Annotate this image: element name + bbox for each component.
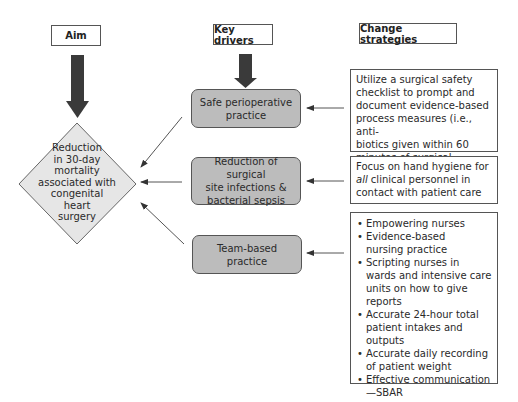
bullet-item: Evidence-based nursing practice (356, 230, 484, 256)
strategy-bullet-list: Empowering nurses Evidence-based nursing… (356, 217, 492, 399)
header-key-drivers: Key drivers (213, 24, 273, 45)
italic-emphasis: all (356, 174, 368, 185)
bullet-item: Accurate 24-hour total patient intakes a… (356, 308, 484, 347)
bullet-item: Empowering nurses (356, 217, 492, 230)
header-aim: Aim (51, 25, 101, 46)
aim-line: heart (22, 200, 132, 212)
strategy-line: biotics given within 60 (356, 138, 492, 151)
driver-safe-perioperative-practice: Safe perioperative practice (191, 89, 301, 128)
aim-line: mortality (22, 165, 132, 177)
header-change-strategies: Change strategies (359, 23, 457, 44)
aim-text: Reduction in 30-day mortality associated… (22, 142, 132, 223)
aim-line: Reduction (22, 142, 132, 154)
strategy-team-practice-list: Empowering nurses Evidence-based nursing… (350, 212, 498, 384)
strategy-text: clinical personnel in (368, 174, 471, 185)
driver-line: practice (200, 109, 292, 122)
bullet-item: Effective communication—SBAR (356, 373, 492, 399)
strategy-line: process measures (i.e., anti- (356, 112, 492, 138)
bullet-item: Scripting nurses in wards and intensive … (356, 256, 492, 308)
key-drivers-down-arrow-icon (234, 54, 257, 88)
aim-line: surgery (22, 211, 132, 223)
strategy-line: Focus on hand hygiene for (356, 160, 492, 173)
driver-line: Team-based practice (197, 242, 297, 268)
driver-line: Reduction of surgical (196, 155, 296, 181)
driver-line: bacterial sepsis (196, 194, 296, 207)
strategy-hand-hygiene: Focus on hand hygiene for all clinical p… (350, 156, 498, 204)
strategy-line: contact with patient care (356, 186, 492, 199)
aim-line: congenital (22, 188, 132, 200)
bullet-item: Accurate daily recording of patient weig… (356, 347, 491, 373)
strategy-line: checklist to prompt and (356, 86, 492, 99)
strategy-surgical-safety-checklist: Utilize a surgical safety checklist to p… (350, 69, 498, 152)
strategy-line: Utilize a surgical safety (356, 73, 492, 86)
arrow-safe-to-aim (141, 117, 182, 167)
strategy-line: all clinical personnel in (356, 173, 492, 186)
driver-team-based-practice: Team-based practice (192, 235, 302, 274)
aim-line: in 30-day (22, 154, 132, 166)
arrow-team-to-aim (141, 203, 184, 244)
driver-reduction-ssi-sepsis: Reduction of surgical site infections & … (191, 157, 301, 205)
driver-line: Safe perioperative (200, 96, 292, 109)
aim-line: associated with (22, 177, 132, 189)
driver-line: site infections & (196, 181, 296, 194)
strategy-line: document evidence-based (356, 99, 492, 112)
aim-down-arrow-icon (66, 55, 89, 118)
